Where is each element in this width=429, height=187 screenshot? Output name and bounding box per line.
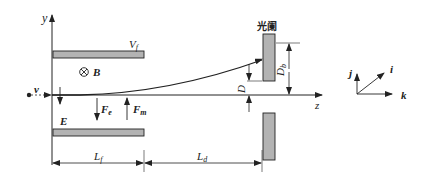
unit-vector-triad: j i k — [347, 63, 407, 101]
length-dimensions: Lf Ld — [53, 150, 262, 172]
electric-force-label: Fe — [100, 103, 112, 117]
incoming-particle: v — [27, 83, 51, 97]
plate-voltage-label: Vf — [129, 38, 140, 52]
field-length-label: Lf — [93, 150, 104, 164]
bottom-deflection-plate — [53, 129, 144, 136]
k-label: k — [401, 89, 407, 101]
aperture-label: 光阑 — [256, 20, 277, 32]
gap-dimension: D — [235, 64, 262, 112]
magnetic-force-label: Fm — [132, 103, 147, 117]
particle-trajectory — [52, 60, 262, 95]
z-axis: z — [52, 95, 322, 111]
aperture: 光阑 — [256, 20, 277, 160]
gap-label: D — [235, 85, 247, 94]
y-axis-label: y — [41, 11, 48, 25]
i-label: i — [390, 63, 394, 75]
electric-field-label: E — [59, 115, 67, 127]
i-vector — [357, 73, 384, 94]
aperture-height-dimension: Db — [274, 43, 300, 94]
magnetic-field-label: B — [92, 66, 100, 78]
top-deflection-plate — [53, 51, 144, 58]
magnetic-field-indicator: B — [80, 66, 101, 78]
j-label: j — [347, 67, 353, 79]
z-axis-label: z — [314, 99, 320, 111]
aperture-height-label: Db — [274, 64, 288, 77]
deflection-diagram: y z v Vf E B Fe Fm 光阑 — [0, 0, 429, 187]
y-axis: y — [41, 11, 52, 165]
aperture-lower-blade — [263, 113, 275, 160]
velocity-label: v — [34, 83, 39, 95]
drift-length-label: Ld — [196, 150, 208, 164]
magnetic-force: Fm — [127, 98, 147, 120]
electric-force: Fe — [97, 98, 112, 120]
